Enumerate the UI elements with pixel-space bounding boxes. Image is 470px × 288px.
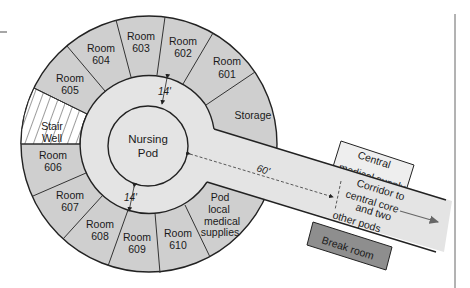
nursing-pod-label-1: Nursing	[128, 133, 168, 145]
storage-label: Storage	[235, 109, 272, 121]
dimension-top-label: 14'	[158, 86, 172, 97]
svg-text:604: 604	[92, 54, 110, 66]
svg-text:605: 605	[61, 84, 79, 96]
nursing-pod-floor-plan: Break room Central medical supply Nursin…	[0, 0, 470, 288]
room-602-label: Room	[169, 35, 197, 47]
room-605-label: Room	[56, 72, 84, 84]
svg-text:608: 608	[91, 230, 109, 242]
room-608-label: Room	[86, 218, 114, 230]
svg-text:601: 601	[218, 68, 236, 80]
svg-text:Well: Well	[42, 132, 62, 144]
room-606-label: Room	[39, 149, 67, 161]
svg-text:603: 603	[132, 42, 150, 54]
room-607-label: Room	[56, 189, 84, 201]
pod-supplies-label: Pod	[211, 191, 230, 203]
svg-text:602: 602	[174, 47, 192, 59]
svg-text:606: 606	[44, 161, 62, 173]
svg-text:local: local	[208, 203, 230, 215]
room-610-label: Room	[164, 227, 192, 239]
svg-text:610: 610	[169, 239, 187, 251]
room-604-label: Room	[87, 42, 115, 54]
svg-text:609: 609	[128, 243, 146, 255]
nursing-pod-label-2: Pod	[138, 147, 158, 159]
room-603-label: Room	[127, 30, 155, 42]
nursing-pod	[108, 106, 188, 186]
svg-text:supplies: supplies	[201, 226, 240, 238]
svg-text:607: 607	[61, 201, 79, 213]
dimension-bottom-label: 14'	[124, 192, 138, 203]
room-601-label: Room	[213, 55, 241, 67]
room-609-label: Room	[123, 231, 151, 243]
stair-well-label: Stair	[41, 120, 63, 132]
